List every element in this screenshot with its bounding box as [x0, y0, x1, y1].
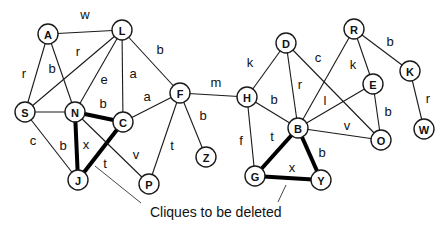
node-G: G [245, 166, 265, 186]
edge-label-N-J: x [83, 137, 90, 152]
edge-label-B-O: v [344, 118, 351, 133]
annotation-pointer-line [95, 166, 141, 203]
node-C: C [113, 112, 133, 132]
node-B: B [288, 118, 308, 138]
node-L: L [112, 20, 132, 40]
cliques-annotation: Cliques to be deleted [150, 204, 282, 220]
edge-label-R-E: k [350, 57, 357, 72]
node-label: S [21, 107, 28, 119]
edge-B-O [298, 128, 381, 140]
edge-H-G [247, 97, 255, 176]
node-D: D [276, 33, 296, 53]
node-J: J [68, 170, 88, 190]
node-label: L [119, 25, 126, 37]
annotation-pointer-line [278, 185, 286, 202]
edge-label-L-S: r [76, 44, 81, 59]
node-label: K [406, 66, 414, 78]
edge-label-G-Y: x [289, 160, 296, 175]
edge-label-F-P: t [170, 138, 174, 153]
node-label: B [294, 123, 302, 135]
node-O: O [371, 130, 391, 150]
edge-label-A-N: b [48, 61, 55, 76]
node-N: N [65, 102, 85, 122]
edge-label-B-Y: b [318, 145, 325, 160]
edge-label-F-Z: b [199, 108, 206, 123]
edge-label-A-L: w [79, 7, 90, 22]
node-label: J [75, 175, 81, 187]
edge-label-F-H: m [211, 75, 222, 90]
edge-label-H-D: k [247, 55, 254, 70]
edge-label-H-G: f [239, 133, 243, 148]
edges-layer [25, 29, 424, 184]
edge-label-E-O: b [384, 104, 391, 119]
edge-label-B-G: t [270, 129, 274, 144]
edge-label-C-F: a [143, 89, 151, 104]
node-F: F [170, 83, 190, 103]
node-label: W [419, 124, 430, 136]
edge-label-H-B: b [270, 92, 277, 107]
edge-E-B [298, 84, 373, 128]
node-label: G [251, 171, 260, 183]
node-Z: Z [196, 147, 216, 167]
node-label: Y [317, 175, 325, 187]
node-label: D [282, 38, 290, 50]
node-H: H [237, 87, 257, 107]
node-label: P [145, 179, 152, 191]
edge-label-C-J: t [103, 156, 107, 171]
edge-label-R-K: b [386, 34, 393, 49]
node-label: A [44, 29, 52, 41]
node-label: H [243, 92, 251, 104]
node-label: F [177, 88, 184, 100]
node-label: O [377, 135, 386, 147]
edge-D-B [286, 43, 298, 128]
edge-label-N-P: v [133, 147, 140, 162]
node-label: E [369, 79, 376, 91]
edge-label-L-N: e [100, 72, 107, 87]
edge-label-L-C: a [129, 66, 137, 81]
edge-R-B [298, 29, 354, 128]
edge-label-K-W: r [426, 91, 431, 106]
node-label: C [119, 117, 127, 129]
node-W: W [414, 119, 434, 139]
edge-L-F [122, 30, 180, 93]
node-R: R [344, 19, 364, 39]
edge-L-C [122, 30, 123, 122]
edge-label-N-C: b [99, 96, 106, 111]
node-Y: Y [311, 170, 331, 190]
node-E: E [363, 74, 383, 94]
edge-label-N-J: b [59, 138, 66, 153]
edge-label-D-O: c [315, 50, 322, 65]
node-label: N [71, 107, 79, 119]
node-label: R [350, 24, 358, 36]
edge-label-S-J: c [30, 133, 37, 148]
edge-label-A-S: r [22, 66, 27, 81]
node-A: A [38, 24, 58, 44]
node-label: Z [203, 152, 210, 164]
node-K: K [400, 61, 420, 81]
node-S: S [15, 102, 35, 122]
graph-diagram: wrbreabcbbtvatbmkbfrckblbvrtbxx ALSNCFJP… [0, 0, 446, 232]
edge-label-E-B: l [324, 93, 327, 108]
edge-A-L [48, 30, 122, 34]
node-P: P [139, 174, 159, 194]
edge-label-L-F: b [156, 42, 163, 57]
edge-label-D-B: r [298, 77, 303, 92]
edge-A-S [25, 34, 48, 112]
